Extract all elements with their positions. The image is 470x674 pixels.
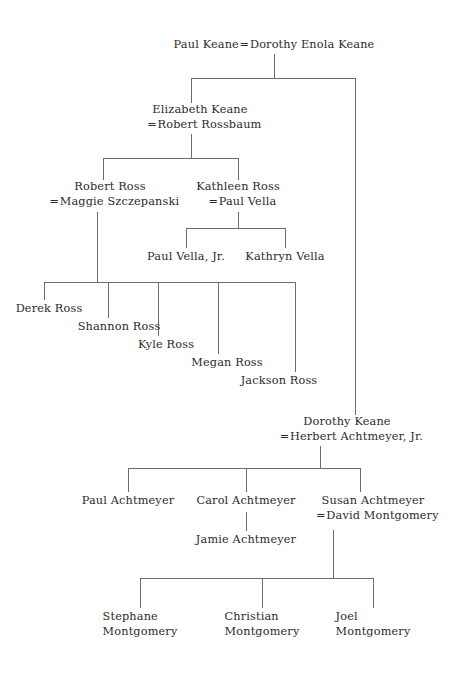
person-elizabeth-keane-couple[interactable]: Elizabeth Keane =Robert Rossbaum (139, 103, 262, 132)
surname: Montgomery (225, 625, 300, 640)
person-derek-ross[interactable]: Derek Ross (16, 302, 83, 317)
person-kyle-ross[interactable]: Kyle Ross (138, 338, 194, 353)
spouse-robert-rossbaum: =Robert Rossbaum (139, 118, 262, 133)
family-tree-diagram: Paul Keane=Dorothy Enola Keane Elizabeth… (0, 0, 470, 674)
person-megan-ross[interactable]: Megan Ross (191, 356, 263, 371)
person-jamie-achtmeyer[interactable]: Jamie Achtmeyer (196, 533, 296, 548)
person-carol-achtmeyer[interactable]: Carol Achtmeyer (196, 494, 295, 509)
person-name-paul-keane: Paul Keane (174, 38, 239, 51)
connector-lines (0, 0, 470, 674)
person-paul-achtmeyer[interactable]: Paul Achtmeyer (82, 494, 175, 509)
marriage-symbol: = (279, 430, 290, 445)
given-name: Christian (225, 610, 300, 625)
person-name-robert-ross: Robert Ross (41, 180, 180, 195)
person-name-maggie-szczepanski: Maggie Szczepanski (60, 195, 180, 208)
person-christian-montgomery[interactable]: Christian Montgomery (225, 610, 300, 639)
person-robert-ross-couple[interactable]: Robert Ross =Maggie Szczepanski (41, 180, 180, 209)
marriage-symbol: = (208, 195, 219, 210)
person-paul-vella-jr[interactable]: Paul Vella, Jr. (147, 250, 225, 265)
spouse-maggie-szczepanski: =Maggie Szczepanski (41, 195, 180, 210)
person-name-dorothy-enola-keane: Dorothy Enola Keane (250, 38, 374, 51)
person-jackson-ross[interactable]: Jackson Ross (241, 374, 318, 389)
person-paul-keane-couple[interactable]: Paul Keane=Dorothy Enola Keane (174, 38, 375, 53)
marriage-symbol: = (315, 509, 326, 524)
spouse-david-montgomery: =David Montgomery (307, 509, 438, 524)
person-name-paul-vella: Paul Vella (219, 195, 277, 208)
person-kathryn-vella[interactable]: Kathryn Vella (245, 250, 324, 265)
surname: Montgomery (336, 625, 411, 640)
marriage-symbol: = (239, 38, 250, 53)
person-name-herbert-achtmeyer-jr: Herbert Achtmeyer, Jr. (290, 430, 423, 443)
person-shannon-ross[interactable]: Shannon Ross (78, 320, 161, 335)
person-name-kathleen-ross: Kathleen Ross (196, 180, 280, 195)
couple-line: Paul Keane=Dorothy Enola Keane (174, 38, 375, 53)
marriage-symbol: = (49, 195, 60, 210)
person-dorothy-keane-couple[interactable]: Dorothy Keane =Herbert Achtmeyer, Jr. (271, 415, 423, 444)
person-name-elizabeth-keane: Elizabeth Keane (139, 103, 262, 118)
given-name: Joel (336, 610, 411, 625)
person-susan-achtmeyer-couple[interactable]: Susan Achtmeyer =David Montgomery (307, 494, 438, 523)
person-kathleen-ross-couple[interactable]: Kathleen Ross =Paul Vella (196, 180, 280, 209)
marriage-symbol: = (147, 118, 158, 133)
person-joel-montgomery[interactable]: Joel Montgomery (336, 610, 411, 639)
surname: Montgomery (103, 625, 178, 640)
spouse-paul-vella: =Paul Vella (196, 195, 280, 210)
person-name-dorothy-keane: Dorothy Keane (271, 415, 423, 430)
person-name-david-montgomery: David Montgomery (326, 509, 438, 522)
given-name: Stephane (103, 610, 178, 625)
person-name-susan-achtmeyer: Susan Achtmeyer (307, 494, 438, 509)
person-name-robert-rossbaum: Robert Rossbaum (158, 118, 262, 131)
spouse-herbert-achtmeyer-jr: =Herbert Achtmeyer, Jr. (271, 430, 423, 445)
person-stephane-montgomery[interactable]: Stephane Montgomery (103, 610, 178, 639)
